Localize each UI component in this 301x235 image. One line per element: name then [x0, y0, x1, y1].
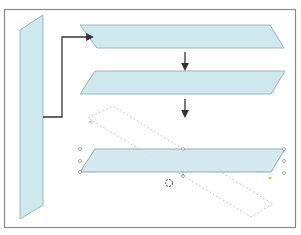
adjust-handle-yellow[interactable] [268, 176, 271, 179]
diagram-canvas: < [0, 0, 301, 235]
step2-parallelogram[interactable] [80, 71, 285, 94]
resize-handle[interactable] [79, 160, 82, 163]
resize-handle[interactable] [283, 172, 286, 175]
resize-handle[interactable] [283, 160, 286, 163]
step1-parallelogram[interactable] [80, 25, 284, 48]
corner-marker: < [88, 118, 93, 125]
resize-handle[interactable] [79, 148, 82, 151]
vertical-parallelogram[interactable] [20, 15, 43, 219]
resize-handle[interactable] [283, 148, 286, 151]
step3-parallelogram-selected[interactable] [80, 149, 285, 172]
resize-handle[interactable] [182, 148, 185, 151]
resize-handle[interactable] [79, 171, 82, 174]
